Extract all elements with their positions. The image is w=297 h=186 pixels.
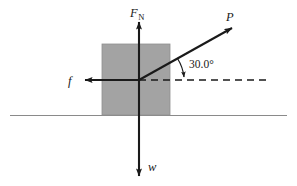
angle-label: 30.0° [189,58,214,70]
weight-force-label: w [148,160,157,174]
normal-force-label: FN [129,6,144,22]
diagram-canvas: FN P f w 30.0° [0,0,297,186]
free-body-diagram: FN P f w 30.0° [0,0,297,186]
angle-arc [178,59,185,78]
friction-force-label: f [68,74,73,88]
applied-force-label: P [225,10,234,24]
